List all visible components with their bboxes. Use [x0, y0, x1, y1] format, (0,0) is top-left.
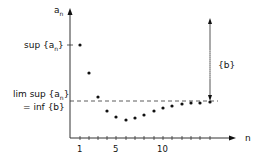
x-tick-label-1: 1: [77, 145, 82, 154]
b-arrow-down-icon: [208, 95, 212, 101]
b-set-label: {b}: [218, 60, 235, 70]
x-tick-label-5: 5: [113, 145, 118, 154]
sup-label: sup {an}: [24, 40, 64, 54]
x-axis-label: n: [245, 133, 251, 143]
x-axis-arrow-icon: [229, 136, 236, 141]
x-tick-label-10: 10: [157, 145, 168, 154]
y-axis-label: an: [54, 5, 63, 19]
y-axis-arrow-icon: [68, 8, 73, 15]
plot-canvas: [0, 0, 257, 166]
inf-b-label: = inf {b}: [23, 102, 65, 112]
limsup-label: lim sup {an}: [13, 89, 69, 103]
data-points: [78, 43, 211, 121]
b-arrow-up-icon: [208, 18, 212, 24]
